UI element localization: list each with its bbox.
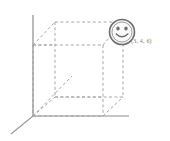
smiley-eye-left [116, 27, 119, 31]
smiley-inner-ring [112, 22, 132, 42]
point-coordinate-label: (3, 4, 6) [131, 37, 152, 45]
figure-canvas [0, 0, 170, 141]
origin-depth-guide [33, 76, 72, 116]
coordinate-figure: (3, 4, 6) [0, 0, 170, 141]
box-edge-depth-bottom-left [33, 97, 55, 116]
box-edge-depth-top-left [33, 22, 55, 45]
smiley-eye-right [124, 27, 127, 31]
x-axis [11, 116, 33, 134]
box-edge-depth-bottom-right [103, 97, 123, 116]
